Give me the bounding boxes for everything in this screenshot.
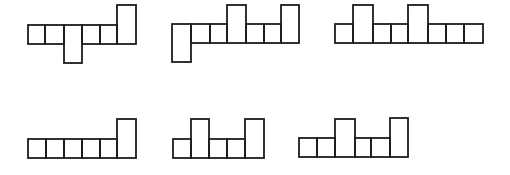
- square-cell: [191, 119, 209, 158]
- square-cell: [172, 24, 191, 62]
- square-cell: [45, 25, 64, 44]
- square-cell: [227, 5, 246, 43]
- square-cell: [371, 138, 390, 157]
- square-cell: [82, 139, 100, 158]
- square-cell: [28, 25, 45, 44]
- square-cell: [64, 25, 82, 63]
- square-cell: [408, 5, 428, 43]
- square-cell: [117, 119, 136, 158]
- square-cell: [264, 24, 281, 43]
- square-cell: [117, 5, 136, 44]
- square-cell: [317, 138, 335, 157]
- square-cell: [210, 24, 227, 43]
- square-cell: [82, 25, 100, 44]
- square-cell: [173, 139, 191, 158]
- square-cell: [373, 24, 391, 43]
- square-cell: [246, 24, 264, 43]
- figure-3: [335, 5, 483, 43]
- square-cell: [428, 24, 446, 43]
- figure-5: [173, 119, 264, 158]
- square-cell: [100, 25, 117, 44]
- square-cell: [64, 139, 82, 158]
- square-cell: [335, 24, 353, 43]
- square-cell: [355, 138, 371, 157]
- square-cell: [335, 119, 355, 157]
- square-cell: [191, 24, 210, 43]
- square-cell: [209, 139, 227, 158]
- square-cell: [446, 24, 464, 43]
- square-cell: [28, 139, 46, 158]
- square-cell: [227, 139, 245, 158]
- figure-1: [28, 5, 136, 63]
- square-cell: [353, 5, 373, 43]
- figure-4: [28, 119, 136, 158]
- figures-diagram: [0, 0, 510, 175]
- square-cell: [390, 118, 408, 157]
- square-cell: [46, 139, 64, 158]
- figure-6: [299, 118, 408, 157]
- square-cell: [299, 138, 317, 157]
- square-cell: [100, 139, 117, 158]
- figure-2: [172, 5, 299, 62]
- square-cell: [391, 24, 408, 43]
- square-cell: [464, 24, 483, 43]
- square-cell: [281, 5, 299, 43]
- square-cell: [245, 119, 264, 158]
